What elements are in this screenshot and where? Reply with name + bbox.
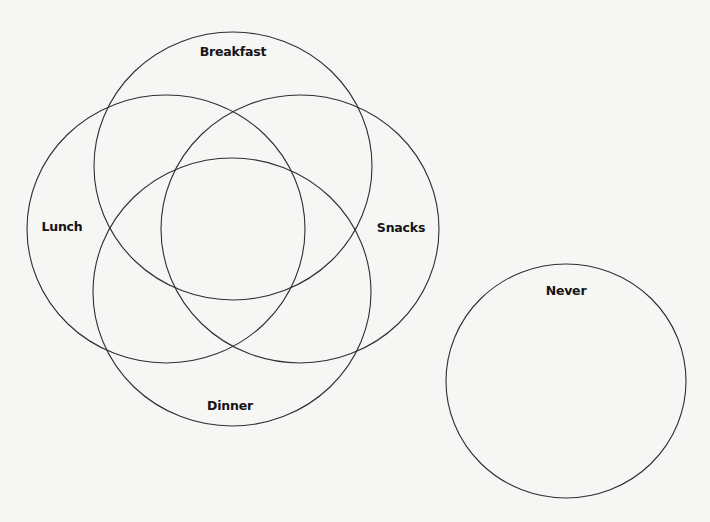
label-dinner: Dinner	[207, 398, 254, 413]
circle-never	[446, 264, 686, 498]
circle-breakfast	[94, 32, 372, 300]
venn-diagram: Breakfast Lunch Snacks Dinner Never	[0, 0, 710, 522]
circle-dinner	[93, 158, 371, 426]
label-lunch: Lunch	[41, 219, 82, 234]
set-circles	[27, 32, 686, 498]
venn-diagram-canvas: Breakfast Lunch Snacks Dinner Never	[0, 0, 710, 522]
label-breakfast: Breakfast	[200, 44, 267, 59]
label-snacks: Snacks	[377, 220, 425, 235]
label-never: Never	[546, 283, 588, 298]
set-labels: Breakfast Lunch Snacks Dinner Never	[41, 44, 587, 413]
